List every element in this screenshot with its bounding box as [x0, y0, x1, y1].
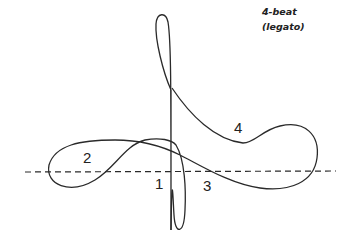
beat-label-1: 1	[155, 176, 163, 191]
beat-label-4: 4	[234, 120, 242, 135]
beat-label-2: 2	[83, 150, 91, 165]
baseline-dashed	[25, 171, 336, 172]
conducting-pattern-figure	[0, 0, 352, 251]
beat-label-3: 3	[203, 178, 211, 193]
beat-path	[156, 15, 171, 230]
